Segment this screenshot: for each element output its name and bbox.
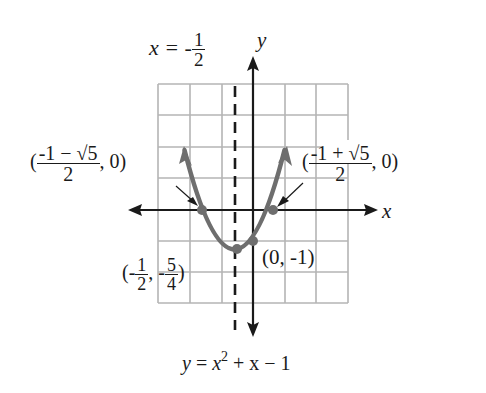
eq-equals: = — [196, 352, 207, 374]
paren: ( — [302, 150, 309, 172]
right-intercept-num: -1 + √5 — [309, 143, 372, 163]
y-axis-label: y — [257, 30, 266, 51]
y-axis — [247, 56, 259, 337]
pointer-arrow-icon — [187, 197, 198, 206]
vertex-x-den: 2 — [135, 274, 148, 293]
y-intercept-point — [248, 236, 258, 246]
eq-x: x — [212, 352, 221, 374]
left-intercept-den: 2 — [37, 163, 100, 184]
x-axis-label: x — [382, 201, 391, 222]
vertex-label: (-12, -54) — [122, 256, 185, 293]
aos-den: 2 — [192, 49, 206, 69]
parabola-graph — [0, 0, 486, 393]
right-intercept-den: 2 — [309, 163, 372, 184]
eq-exponent: 2 — [221, 349, 228, 364]
vertex-y-num: 5 — [165, 256, 178, 274]
vertex-mid: , - — [148, 261, 165, 283]
vertex-point — [232, 244, 242, 254]
x-axis-left-arrow-icon — [128, 204, 142, 216]
left-intercept-num: -1 − √5 — [37, 143, 100, 163]
y-intercept-label: (0, -1) — [262, 247, 314, 268]
paren: ( — [30, 150, 37, 172]
right-intercept-tail: , 0) — [372, 150, 399, 172]
eq-rest: + x − 1 — [233, 352, 291, 374]
eq-y: y — [182, 352, 191, 374]
vertex-close: ) — [178, 261, 185, 283]
right-intercept-point — [268, 205, 278, 215]
axis-of-symmetry-label: x = -12 — [149, 30, 205, 69]
vertex-y-den: 4 — [165, 274, 178, 293]
vertex-open: (- — [122, 261, 135, 283]
left-intercept-tail: , 0) — [100, 150, 127, 172]
left-intercept-point — [197, 205, 207, 215]
aos-lhs: x = - — [149, 35, 192, 60]
left-intercept-label: (-1 − √52, 0) — [30, 143, 126, 184]
right-pointer — [277, 183, 303, 207]
vertex-x-num: 1 — [135, 256, 148, 274]
aos-num: 1 — [192, 30, 206, 49]
x-axis-right-arrow-icon — [364, 204, 378, 216]
equation-label: y = x2 + x − 1 — [182, 350, 291, 373]
right-intercept-label: (-1 + √52, 0) — [302, 143, 398, 184]
